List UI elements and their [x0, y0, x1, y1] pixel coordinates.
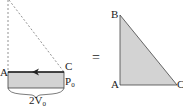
shaded-triangle: [120, 15, 177, 85]
dashed-hypotenuse-line: [9, 0, 64, 72]
shaded-rectangle: [8, 72, 64, 88]
diagram-canvas: A C P0 2V0 = B A C: [0, 0, 183, 108]
label-C-left: C: [65, 60, 72, 72]
equals-sign: =: [92, 50, 100, 65]
label-P0: P0: [65, 75, 75, 89]
label-2V0: 2V0: [29, 94, 46, 108]
label-B-right: B: [111, 8, 118, 20]
right-figure: B A C: [111, 8, 183, 90]
label-A-left: A: [0, 66, 8, 78]
left-figure: A C P0 2V0: [0, 0, 75, 108]
label-A-right: A: [111, 78, 119, 90]
label-C-right: C: [177, 78, 183, 90]
